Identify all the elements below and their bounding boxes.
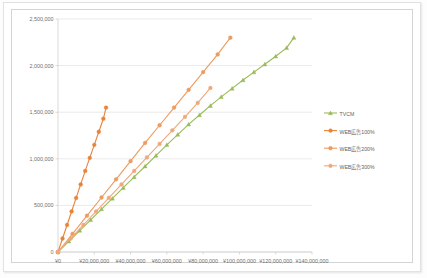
series-WEB広告100%[interactable] [56, 106, 108, 254]
data-point-marker [172, 106, 176, 110]
data-point-marker [74, 196, 78, 200]
plot-area-wrapper: 0500,0001,000,0001,500,0002,000,0002,500… [12, 10, 412, 262]
data-point-marker [216, 53, 220, 57]
legend-item-label: WEB広告300% [340, 163, 375, 171]
data-point-marker [100, 196, 104, 200]
series-line [58, 108, 106, 252]
data-point-marker [107, 196, 111, 200]
series-WEB広告200%[interactable] [56, 36, 232, 254]
data-point-marker [79, 183, 83, 187]
x-tick-label: ¥20,000,000 [79, 258, 109, 264]
data-point-marker [201, 70, 205, 74]
data-point-marker [97, 130, 101, 134]
y-tick-label: 1,000,000 [30, 156, 54, 162]
data-point-marker [145, 156, 149, 160]
legend-item-WEB広告100%[interactable]: WEB広告100% [324, 128, 375, 136]
legend-item-label: WEB広告100% [340, 128, 375, 136]
data-point-marker [65, 223, 69, 227]
data-point-marker [196, 101, 200, 105]
data-point-marker [329, 164, 333, 168]
line-chart[interactable]: 0500,0001,000,0001,500,0002,000,0002,500… [12, 10, 414, 264]
data-point-marker [92, 143, 96, 147]
chart-legend[interactable]: TVCMWEB広告100%WEB広告200%WEB広告300% [324, 111, 375, 171]
data-point-marker [83, 169, 87, 173]
x-tick-label: ¥120,000,000 [259, 258, 292, 264]
y-tick-label: 0 [51, 249, 54, 255]
series-WEB広告300%[interactable] [56, 86, 212, 254]
data-point-marker [101, 117, 105, 121]
data-point-marker [114, 177, 118, 181]
data-point-marker [228, 36, 232, 40]
legend-item-label: WEB広告200% [340, 145, 375, 153]
data-point-marker [292, 36, 296, 40]
data-series[interactable] [56, 36, 296, 254]
data-point-marker [187, 88, 191, 92]
data-point-marker [183, 115, 187, 119]
y-tick-label: 1,500,000 [30, 109, 54, 115]
data-point-marker [158, 142, 162, 146]
data-point-marker [61, 237, 65, 241]
data-point-marker [85, 214, 89, 218]
gridlines [58, 19, 312, 252]
y-axis-tick-labels: 0500,0001,000,0001,500,0002,000,0002,500… [30, 16, 54, 255]
data-point-marker [104, 106, 108, 110]
data-point-marker [132, 169, 136, 173]
x-tick-label: ¥140,000,000 [296, 258, 329, 264]
axis-lines [56, 19, 313, 255]
legend-item-TVCM[interactable]: TVCM [324, 111, 354, 117]
x-tick-label: ¥100,000,000 [223, 258, 256, 264]
data-point-marker [82, 223, 86, 227]
y-tick-label: 500,000 [34, 202, 54, 208]
data-point-marker [56, 250, 60, 254]
data-point-marker [70, 210, 74, 214]
legend-item-label: TVCM [340, 111, 355, 117]
y-tick-label: 2,500,000 [30, 16, 54, 22]
data-point-marker [143, 141, 147, 145]
data-point-marker [129, 159, 133, 163]
screenshot-root: 0500,0001,000,0001,500,0002,000,0002,500… [0, 0, 427, 278]
data-point-marker [69, 237, 73, 241]
data-point-marker [329, 146, 333, 150]
series-TVCM[interactable] [56, 36, 296, 254]
data-point-marker [329, 129, 333, 133]
x-tick-label: ¥40,000,000 [116, 258, 146, 264]
data-point-marker [88, 156, 92, 160]
x-tick-label: ¥60,000,000 [152, 258, 182, 264]
data-point-marker [209, 86, 213, 90]
legend-item-WEB広告300%[interactable]: WEB広告300% [324, 163, 375, 171]
data-point-marker [120, 183, 124, 187]
x-tick-label: ¥80,000,000 [188, 258, 218, 264]
x-axis-tick-labels: ¥0¥20,000,000¥40,000,000¥60,000,000¥80,0… [55, 258, 328, 264]
y-tick-label: 2,000,000 [30, 63, 54, 69]
chart-panel[interactable]: 0500,0001,000,0001,500,0002,000,0002,500… [11, 9, 413, 263]
data-point-marker [158, 123, 162, 127]
x-tick-label: ¥0 [55, 258, 61, 264]
data-point-marker [94, 210, 98, 214]
data-point-marker [170, 128, 174, 132]
legend-item-WEB広告200%[interactable]: WEB広告200% [324, 145, 375, 153]
